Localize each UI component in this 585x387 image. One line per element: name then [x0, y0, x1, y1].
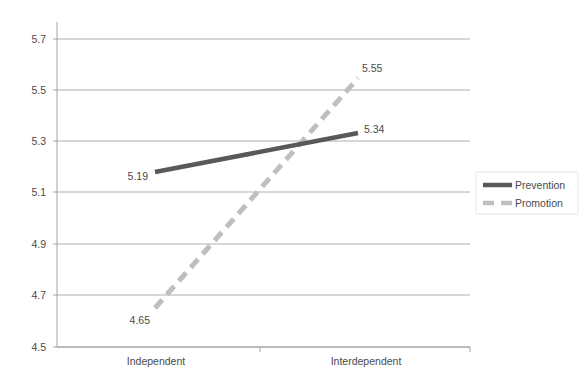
x-category-label-interdependent: Interdependent	[331, 355, 402, 367]
data-label-prevention-independent: 5.19	[128, 170, 149, 182]
y-tick-label-5.5: 5.5	[31, 84, 46, 96]
y-axis-tickmarks	[53, 39, 57, 347]
data-label-promotion-independent: 4.65	[130, 314, 151, 326]
data-label-prevention-interdependent: 5.34	[364, 123, 385, 135]
series-line-prevention	[155, 133, 358, 172]
y-tick-label-5.3: 5.3	[31, 135, 46, 147]
y-tick-label-4.9: 4.9	[31, 238, 46, 250]
chart-legend[interactable]: Prevention Promotion	[476, 172, 578, 214]
data-label-promotion-interdependent: 5.55	[362, 62, 383, 74]
y-tick-label-5.1: 5.1	[31, 186, 46, 198]
y-tick-label-4.5: 4.5	[31, 341, 46, 353]
x-axis-category-labels: Independent Interdependent	[127, 355, 402, 367]
legend-label-promotion: Promotion	[515, 197, 563, 209]
series-line-promotion	[155, 78, 358, 308]
y-tick-label-5.7: 5.7	[31, 33, 46, 45]
chart-canvas: 5.7 5.5 5.3 5.1 4.9 4.7 4.5 Independent …	[0, 0, 585, 387]
line-chart: 5.7 5.5 5.3 5.1 4.9 4.7 4.5 Independent …	[0, 0, 585, 387]
y-tick-label-4.7: 4.7	[31, 289, 46, 301]
gridlines	[57, 39, 470, 347]
x-category-label-independent: Independent	[127, 355, 185, 367]
x-axis-tickmarks	[260, 347, 470, 352]
legend-label-prevention: Prevention	[515, 179, 565, 191]
y-axis-tick-labels: 5.7 5.5 5.3 5.1 4.9 4.7 4.5	[31, 33, 46, 353]
